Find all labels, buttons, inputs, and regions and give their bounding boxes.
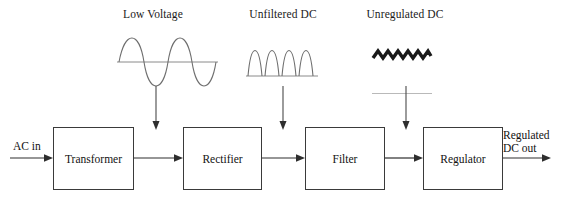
stage-label-transformer: Transformer xyxy=(65,153,122,165)
power-supply-block-diagram: Low Voltage Unfiltered DC Unregulated DC… xyxy=(0,0,562,208)
arrow-down-to-filter xyxy=(398,86,414,132)
stage-label-regulator: Regulator xyxy=(440,153,485,165)
stage-label-filter: Filter xyxy=(333,153,358,165)
arrow-filter-to-regulator xyxy=(385,150,425,166)
stage-box-regulator[interactable]: Regulator xyxy=(423,127,503,190)
output-label-line-1: Regulated xyxy=(503,129,550,142)
stage-box-filter[interactable]: Filter xyxy=(305,127,385,190)
waveform-title-unfiltered-dc: Unfiltered DC xyxy=(238,8,328,20)
rectified-sine-wave-icon xyxy=(244,34,320,80)
arrow-down-to-transformer xyxy=(148,86,164,132)
stage-box-transformer[interactable]: Transformer xyxy=(53,127,134,190)
sine-wave-icon xyxy=(115,28,220,96)
arrow-rectifier-to-filter xyxy=(262,150,307,166)
waveform-title-low-voltage: Low Voltage xyxy=(110,8,196,20)
arrow-input-ac-in xyxy=(10,150,55,166)
arrow-down-to-rectifier xyxy=(275,86,291,132)
ripple-sawtooth-icon xyxy=(370,44,434,66)
arrow-transformer-to-rectifier xyxy=(134,150,185,166)
arrow-output-regulated-dc xyxy=(503,150,553,166)
waveform-title-unregulated-dc: Unregulated DC xyxy=(355,8,455,20)
stage-box-rectifier[interactable]: Rectifier xyxy=(183,127,262,190)
stage-label-rectifier: Rectifier xyxy=(202,153,242,165)
